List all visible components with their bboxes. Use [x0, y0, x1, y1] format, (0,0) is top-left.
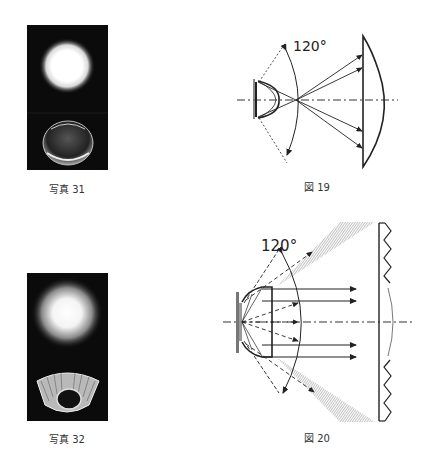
fresnel-grooves-top — [384, 223, 391, 283]
hatched-cone-bottom — [276, 357, 375, 422]
figure-19-caption: 図 19 — [304, 182, 330, 193]
angle-arc — [286, 50, 298, 155]
figure-20: 120° — [223, 222, 413, 422]
angle-label: 120° — [293, 38, 327, 54]
led-plate — [236, 292, 239, 353]
diagram-canvas: 120° 図 19 — [0, 0, 428, 461]
figure-19: 120° — [237, 36, 398, 167]
fresnel-grooves-bottom — [384, 360, 391, 421]
angle-label: 120° — [261, 237, 297, 255]
plano-convex-lens — [363, 36, 384, 167]
figure-20-caption: 図 20 — [304, 433, 330, 444]
